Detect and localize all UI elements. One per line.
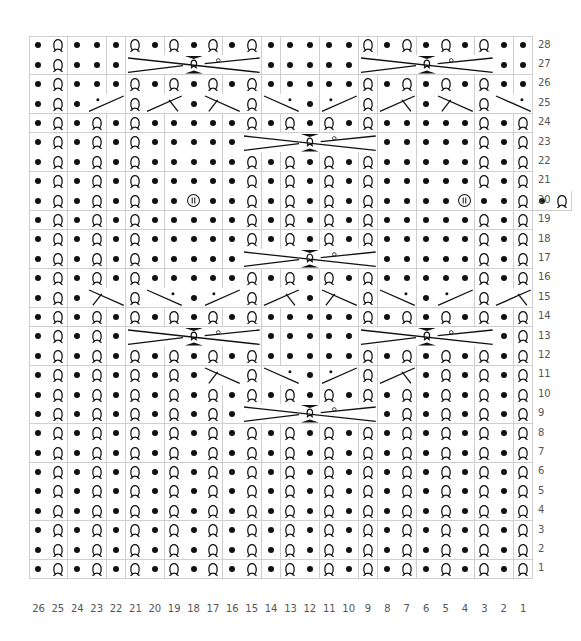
twisted-knit-cell xyxy=(475,385,495,405)
twisted-stitch-icon xyxy=(281,172,299,190)
purl-dot-icon xyxy=(113,236,119,242)
purl-dot-icon xyxy=(152,469,158,475)
twisted-stitch-icon xyxy=(398,347,416,365)
twisted-stitch-icon xyxy=(165,347,183,365)
twisted-stitch-icon xyxy=(243,482,261,500)
purl-stitch-cell xyxy=(107,191,127,211)
purl-stitch-cell xyxy=(29,443,49,463)
purl-dot-icon xyxy=(423,256,429,262)
twisted-knit-cell xyxy=(475,152,495,172)
purl-dot-icon xyxy=(268,488,274,494)
bobble-icon xyxy=(456,192,473,209)
purl-stitch-cell xyxy=(494,463,514,483)
purl-stitch-cell xyxy=(203,269,223,289)
purl-stitch-cell xyxy=(262,501,282,521)
twisted-stitch-icon xyxy=(475,521,493,539)
purl-dot-icon xyxy=(501,372,507,378)
twisted-stitch-icon xyxy=(514,269,532,287)
twisted-knit-cell xyxy=(359,114,379,134)
row-number-label: 19 xyxy=(538,213,562,224)
purl-dot-icon xyxy=(307,508,313,514)
purl-stitch-cell xyxy=(262,114,282,134)
cable-cross-icon xyxy=(242,133,378,152)
twisted-knit-cell xyxy=(203,560,223,580)
purl-dot-icon xyxy=(152,450,158,456)
purl-stitch-cell xyxy=(397,191,417,211)
twisted-knit-cell xyxy=(359,482,379,502)
twisted-knit-cell xyxy=(242,172,262,192)
purl-dot-icon xyxy=(35,295,41,301)
twisted-stitch-icon xyxy=(243,192,261,210)
twisted-stitch-icon xyxy=(88,502,106,520)
twisted-stitch-icon xyxy=(243,153,261,171)
twisted-stitch-icon xyxy=(49,250,67,268)
twisted-knit-cell xyxy=(48,346,68,366)
purl-dot-icon xyxy=(462,275,468,281)
twisted-stitch-icon xyxy=(165,75,183,93)
purl-stitch-cell xyxy=(68,308,88,328)
purl-stitch-cell xyxy=(378,463,398,483)
twisted-knit-cell xyxy=(126,152,146,172)
purl-dot-icon xyxy=(35,547,41,553)
purl-stitch-cell xyxy=(262,152,282,172)
purl-dot-icon xyxy=(423,295,429,301)
twisted-stitch-icon xyxy=(49,482,67,500)
twisted-knit-cell xyxy=(87,404,107,424)
purl-dot-icon xyxy=(501,566,507,572)
purl-stitch-cell xyxy=(223,443,243,463)
twisted-stitch-icon xyxy=(359,541,377,559)
twisted-stitch-icon xyxy=(437,541,455,559)
purl-dot-icon xyxy=(191,217,197,223)
purl-stitch-cell xyxy=(300,230,320,250)
purl-dot-icon xyxy=(152,392,158,398)
purl-stitch-cell xyxy=(262,346,282,366)
twisted-knit-cell xyxy=(48,463,68,483)
twisted-knit-cell xyxy=(48,269,68,289)
twisted-stitch-icon xyxy=(320,541,338,559)
purl-dot-icon xyxy=(443,236,449,242)
twisted-stitch-icon xyxy=(514,386,532,404)
twisted-stitch-icon xyxy=(398,424,416,442)
twisted-knit-cell xyxy=(359,463,379,483)
purl-stitch-cell xyxy=(107,152,127,172)
twisted-stitch-icon xyxy=(204,560,222,578)
twisted-knit-cell xyxy=(514,540,534,560)
purl-stitch-cell xyxy=(455,249,475,269)
purl-dot-icon xyxy=(346,566,352,572)
purl-stitch-cell xyxy=(281,327,301,347)
twisted-stitch-icon xyxy=(88,347,106,365)
purl-stitch-cell xyxy=(203,230,223,250)
two-stitch-cross-cell xyxy=(494,94,533,114)
purl-stitch-cell xyxy=(300,521,320,541)
purl-stitch-cell xyxy=(262,327,282,347)
twisted-stitch-icon xyxy=(126,463,144,481)
purl-dot-icon xyxy=(268,450,274,456)
purl-stitch-cell xyxy=(494,366,514,386)
purl-stitch-cell xyxy=(145,152,165,172)
purl-dot-icon xyxy=(191,120,197,126)
twisted-knit-cell xyxy=(475,249,495,269)
row-number-label: 18 xyxy=(538,233,562,244)
purl-stitch-cell xyxy=(107,482,127,502)
purl-dot-icon xyxy=(152,120,158,126)
purl-stitch-cell xyxy=(107,346,127,366)
twisted-stitch-icon xyxy=(475,230,493,248)
twisted-stitch-icon xyxy=(165,482,183,500)
purl-stitch-cell xyxy=(165,114,185,134)
twisted-knit-cell xyxy=(242,269,262,289)
twisted-stitch-icon xyxy=(475,541,493,559)
twisted-stitch-icon xyxy=(475,250,493,268)
purl-dot-icon xyxy=(307,42,313,48)
purl-stitch-cell xyxy=(262,560,282,580)
twisted-stitch-icon xyxy=(88,269,106,287)
twisted-stitch-icon xyxy=(437,75,455,93)
purl-dot-icon xyxy=(520,62,526,68)
twisted-knit-cell xyxy=(475,463,495,483)
purl-dot-icon xyxy=(171,178,177,184)
purl-dot-icon xyxy=(287,333,293,339)
purl-stitch-cell xyxy=(145,540,165,560)
purl-dot-icon xyxy=(268,159,274,165)
purl-stitch-cell xyxy=(29,385,49,405)
purl-dot-icon xyxy=(152,42,158,48)
purl-dot-icon xyxy=(287,81,293,87)
